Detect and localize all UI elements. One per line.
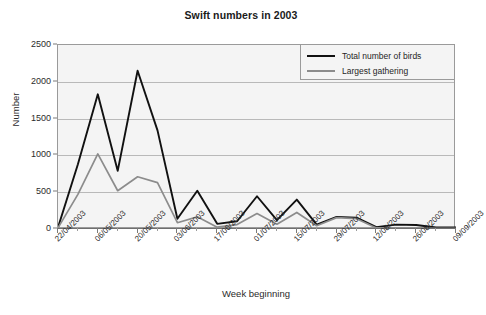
x-axis-minor-tick (236, 228, 237, 231)
x-axis-minor-tick (157, 228, 158, 231)
x-axis-title: Week beginning (57, 288, 455, 299)
series-line-total (58, 71, 456, 228)
legend-item-total: Total number of birds (307, 48, 454, 63)
y-axis-tick-label: 1500 (31, 113, 51, 123)
legend-swatch-largest (307, 70, 335, 72)
legend-label-total: Total number of birds (342, 51, 421, 61)
x-axis-minor-tick (316, 228, 317, 231)
y-axis-tick-label: 0 (46, 223, 51, 233)
x-axis-minor-tick (435, 228, 436, 231)
x-axis-minor-tick (356, 228, 357, 231)
y-axis-tick-label: 500 (36, 186, 51, 196)
x-axis-minor-tick (117, 228, 118, 231)
legend-item-largest: Largest gathering (307, 63, 454, 78)
y-axis-tick-label: 1000 (31, 149, 51, 159)
x-axis-tick-label: 09/09/2003 (451, 209, 486, 244)
y-axis: 05001000150020002500 (0, 44, 57, 228)
x-axis-minor-tick (77, 228, 78, 231)
x-axis-minor-tick (395, 228, 396, 231)
y-axis-tick-label: 2000 (31, 76, 51, 86)
x-axis-minor-tick (276, 228, 277, 231)
y-axis-tick-label: 2500 (31, 39, 51, 49)
chart-title: Swift numbers in 2003 (0, 9, 482, 21)
x-axis-minor-tick (196, 228, 197, 231)
legend-swatch-total (307, 55, 335, 57)
legend-label-largest: Largest gathering (342, 66, 408, 76)
chart-legend: Total number of birds Largest gathering (300, 44, 455, 80)
